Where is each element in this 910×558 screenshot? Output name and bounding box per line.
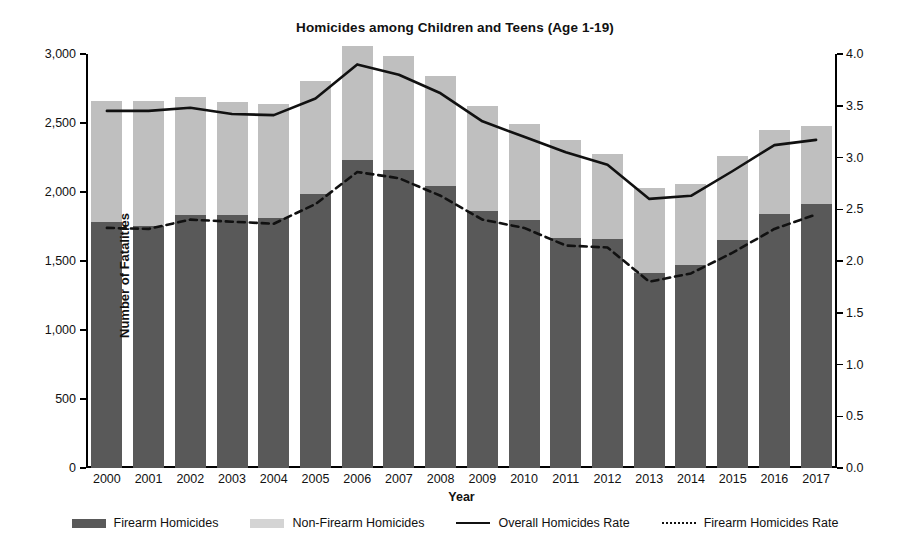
x-axis-tick-label: 2004 [260,472,288,486]
y-axis-right-tick [837,53,843,55]
x-axis-tick-label: 2014 [677,472,705,486]
y-axis-right-tick [837,209,843,211]
chart-legend: Firearm HomicidesNon-Firearm HomicidesOv… [0,516,910,530]
legend-item[interactable]: Non-Firearm Homicides [250,516,424,530]
x-axis-tick-label: 2000 [93,472,121,486]
y-axis-right-tick [837,105,843,107]
x-axis-tick-label: 2010 [510,472,538,486]
line-series-overlay [86,54,837,468]
x-axis-tick-label: 2005 [302,472,330,486]
x-axis-tick-label: 2007 [385,472,413,486]
chart-container: Homicides among Children and Teens (Age … [0,0,910,558]
x-axis-tick-label: 2013 [635,472,663,486]
y-axis-right-tick-label: 3.0 [846,151,863,165]
y-axis-right-tick [837,260,843,262]
y-axis-right-tick-label: 1.5 [846,306,863,320]
x-axis-title: Year [86,490,837,504]
x-axis-tick-label: 2017 [802,472,830,486]
y-axis-left-tick-label: 2,000 [45,185,76,199]
y-axis-right-tick [837,312,843,314]
legend-item[interactable]: Firearm Homicides Rate [662,516,839,530]
y-axis-right-tick-label: 0.5 [846,409,863,423]
legend-item[interactable]: Overall Homicides Rate [456,516,629,530]
y-axis-right-tick-label: 0.0 [846,461,863,475]
x-axis-tick-label: 2001 [135,472,163,486]
x-axis-tick-label: 2011 [552,472,579,486]
x-axis-tick-label: 2016 [761,472,789,486]
x-axis-tick-label: 2002 [176,472,204,486]
plot-area: 05001,0001,5002,0002,5003,000 0.00.51.01… [86,54,837,468]
y-axis-right-tick-label: 4.0 [846,47,863,61]
legend-swatch-firearm-icon [72,519,106,528]
line-firearm-homicides-rate [107,172,816,282]
y-axis-left-tick-label: 3,000 [45,47,76,61]
legend-line-solid-icon [456,522,490,524]
legend-item-label: Firearm Homicides [114,516,219,530]
y-axis-left-tick-label: 500 [55,392,76,406]
x-axis-tick-label: 2006 [343,472,371,486]
y-axis-right-tick-label: 2.0 [846,254,863,268]
x-axis-tick-label: 2008 [427,472,455,486]
y-axis-right-tick-label: 2.5 [846,202,863,216]
legend-item-label: Firearm Homicides Rate [704,516,839,530]
y-axis-left-tick-label: 0 [69,461,76,475]
x-axis-tick-label: 2012 [594,472,622,486]
x-axis-tick-label: 2009 [468,472,496,486]
y-axis-right-tick-label: 1.0 [846,358,863,372]
y-axis-left-title: Number of Fatalities [117,176,132,376]
legend-line-dotted-icon [662,522,696,524]
y-axis-right-tick [837,467,843,469]
x-axis-tick-label: 2003 [218,472,246,486]
y-axis-right-tick [837,364,843,366]
y-axis-left-tick-label: 1,500 [45,254,76,268]
y-axis-left-tick-label: 1,000 [45,323,76,337]
x-axis-tick-label: 2015 [719,472,747,486]
legend-item-label: Overall Homicides Rate [498,516,629,530]
line-overall-homicides-rate [107,64,816,199]
y-axis-left-tick-label: 2,500 [45,116,76,130]
legend-item-label: Non-Firearm Homicides [292,516,424,530]
chart-title: Homicides among Children and Teens (Age … [0,20,910,35]
y-axis-right-tick [837,157,843,159]
y-axis-right-tick [837,416,843,418]
y-axis-right-tick-label: 3.5 [846,99,863,113]
legend-item[interactable]: Firearm Homicides [72,516,219,530]
legend-swatch-non-firearm-icon [250,519,284,528]
